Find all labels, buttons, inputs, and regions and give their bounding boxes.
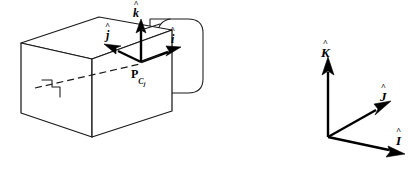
J-hat-vector (328, 101, 391, 137)
I-hat-vector (328, 137, 405, 157)
k-hat-label: ^ k (133, 2, 139, 19)
i-hat-label: ^ i (170, 28, 175, 45)
point-label-sub: C (138, 77, 143, 86)
rectangular-link-body (21, 17, 172, 137)
J-hat-glyph: J (380, 90, 387, 103)
origin-point-label: PCj (131, 64, 145, 84)
K-hat-vector (322, 57, 334, 137)
I-hat-glyph: I (396, 134, 401, 147)
K-hat-label: ^ K (321, 41, 330, 59)
technical-diagram: ^ k ^ j ^ i PCj ^ K ^ J ^ I (0, 0, 420, 173)
J-hat-label: ^ J (380, 85, 387, 103)
I-hat-label: ^ I (396, 129, 401, 147)
j-hat-label: ^ j (105, 24, 110, 41)
diagram-canvas (0, 0, 420, 173)
reference-frame-axes (322, 57, 405, 157)
K-hat-glyph: K (321, 46, 330, 59)
k-hat-glyph: k (133, 7, 139, 19)
